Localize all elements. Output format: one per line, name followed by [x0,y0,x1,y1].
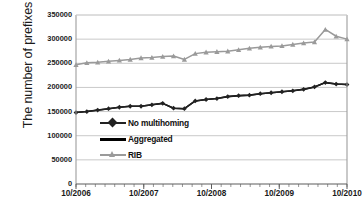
data-point [149,102,154,107]
legend-label: No multihoming [126,118,189,128]
legend-label: Aggregated [126,134,173,144]
x-axis-major-ticks [76,184,347,189]
legend-item: RIB [100,147,230,163]
data-point [128,104,133,109]
data-point [290,88,295,93]
legend-swatch-icon [100,133,126,145]
data-point [280,89,285,94]
plot-area [0,0,364,213]
legend: No multihomingAggregatedRIB [100,115,230,163]
data-point [312,85,317,90]
line-chart: The number of prefixes 05000010000015000… [0,0,364,213]
data-point [84,109,89,114]
data-point [117,105,122,110]
data-point [247,93,252,98]
data-point [171,106,176,111]
data-point [323,80,328,85]
legend-label: RIB [126,150,142,160]
data-point [334,82,339,87]
data-point [258,91,263,96]
legend-swatch-icon [100,117,126,129]
series-rib [73,27,349,67]
legend-item: Aggregated [100,131,230,147]
data-point [204,97,209,102]
series-no-multihoming [74,80,350,115]
legend-swatch-icon [100,149,126,161]
data-point [323,27,328,32]
data-point [139,104,144,109]
data-series-layer [73,27,349,115]
data-point [269,90,274,95]
data-point [215,96,220,101]
legend-item: No multihoming [100,115,230,131]
data-point [160,101,165,106]
data-point [106,106,111,111]
data-point [236,93,241,98]
data-point [225,94,230,99]
